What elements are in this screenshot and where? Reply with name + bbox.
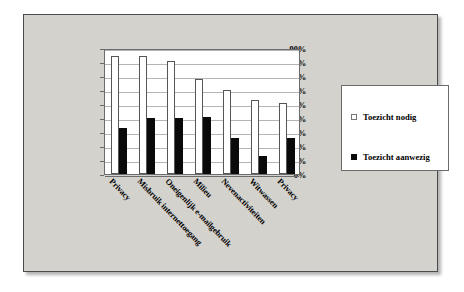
bar-group [105, 50, 133, 174]
bar-toezicht-aanwezig [119, 128, 127, 174]
bar-toezicht-nodig [279, 103, 287, 174]
bar-toezicht-nodig [167, 61, 175, 174]
bar-group [189, 50, 217, 174]
legend-item: Toezicht aanwezig [351, 152, 430, 162]
bar-group [245, 50, 273, 174]
plot-area [104, 49, 300, 175]
legend-item: Toezicht nodig [351, 112, 416, 122]
legend-label: Toezicht nodig [363, 112, 416, 122]
bar-toezicht-nodig [139, 56, 147, 174]
bar-toezicht-aanwezig [231, 138, 239, 174]
bar-toezicht-nodig [223, 90, 231, 174]
bar-group [273, 50, 301, 174]
bar-group [133, 50, 161, 174]
legend-label: Toezicht aanwezig [363, 152, 430, 162]
x-tick-label: Privacy [108, 177, 133, 202]
bar-toezicht-aanwezig [203, 117, 211, 174]
bar-toezicht-nodig [195, 79, 203, 174]
bar-toezicht-aanwezig [147, 118, 155, 174]
bar-group [217, 50, 245, 174]
x-tick-label: Privacy [276, 177, 301, 202]
bar-toezicht-aanwezig [287, 138, 295, 174]
y-tick-0 [100, 175, 104, 176]
gridline-0 [105, 176, 299, 177]
chart-legend: Toezicht nodigToezicht aanwezig [341, 85, 449, 171]
x-tick-label: Milieu [192, 177, 214, 199]
slide-canvas: 90%80%70%60%50%40%30%20%10%0% PrivacyMis… [0, 0, 464, 292]
bar-toezicht-aanwezig [175, 118, 183, 174]
chart-frame: 90%80%70%60%50%40%30%20%10%0% PrivacyMis… [23, 14, 438, 272]
bar-toezicht-aanwezig [259, 156, 267, 174]
bar-toezicht-nodig [111, 56, 119, 174]
legend-swatch-dark [351, 154, 357, 160]
bar-chart: 90%80%70%60%50%40%30%20%10%0% PrivacyMis… [56, 29, 306, 257]
bar-group [161, 50, 189, 174]
bar-toezicht-nodig [251, 100, 259, 174]
legend-swatch-light [351, 114, 357, 120]
